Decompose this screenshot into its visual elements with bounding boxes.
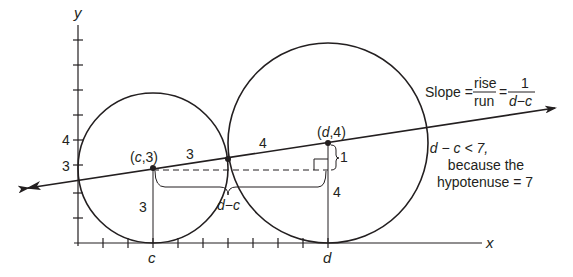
tangent-point (225, 156, 231, 162)
small-center-label: (c,3) (130, 149, 158, 165)
large-radius-label: 4 (259, 135, 267, 151)
x-axis-label: x (485, 234, 494, 251)
y-tick-label-4: 4 (62, 132, 70, 148)
large-center-point (325, 140, 331, 146)
slope-equals: = (499, 84, 507, 100)
hypotenuse-note: d − c < 7, because the hypotenuse = 7 (430, 140, 533, 190)
slope-run: run (474, 93, 494, 109)
slope-prefix: Slope = (425, 84, 473, 100)
large-center-label: (d,4) (317, 124, 346, 140)
rise-label: 1 (340, 149, 348, 165)
x-tick-label-d: d (323, 249, 332, 266)
left-arrow-icon (26, 181, 41, 190)
y-tick-label-3: 3 (62, 158, 70, 174)
y-axis-label: y (73, 4, 83, 21)
small-center-point (150, 165, 156, 171)
slope-denominator: d−c (509, 93, 532, 109)
x-axis (74, 238, 482, 248)
note-line-1: d − c < 7, (430, 140, 488, 156)
right-angle-marker (314, 159, 328, 170)
svg-text:(c,3): (c,3) (130, 149, 158, 165)
small-vertical-label: 3 (139, 199, 147, 215)
x-tick-label-c: c (148, 249, 156, 266)
y-axis (73, 25, 83, 246)
run-label: d−c (217, 197, 240, 213)
slope-rise: rise (474, 75, 497, 91)
note-line-3: hypotenuse = 7 (437, 174, 533, 190)
slope-numerator: 1 (521, 75, 529, 91)
small-radius-label: 3 (186, 146, 194, 162)
svg-text:(d,4): (d,4) (317, 124, 346, 140)
note-line-2: because the (448, 157, 524, 173)
large-vertical-label: 4 (333, 184, 341, 200)
tangent-circles-diagram: y 4 3 x c d (c,3) (d,4) (0, 0, 573, 277)
slope-annotation: Slope = rise run = 1 d−c (425, 75, 535, 109)
rise-brace (331, 145, 339, 170)
